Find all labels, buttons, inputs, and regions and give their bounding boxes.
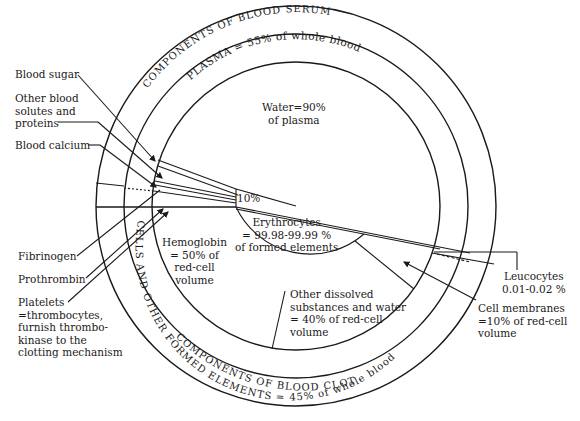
callout-prothrombin: Prothrombin	[18, 273, 86, 286]
outer-bottom-ring-label: COMPONENTS OF BLOOD CLOT	[174, 331, 357, 393]
callout-cell-membranes: Cell membranes =10% of red-cell volume	[478, 302, 567, 340]
callout-fibrinogen: Fibrinogen	[18, 250, 77, 263]
middle-top-ring-label: PLASMA = 55% of whole blood	[184, 29, 363, 82]
other-dissolved-label: Other dissolved substances and water = 4…	[290, 288, 406, 338]
callout-leucocytes: Leucocytes 0.01-0.02 %	[502, 270, 566, 295]
callout-platelets: Platelets =thrombocytes, furnish thrombo…	[18, 296, 123, 359]
callout-blood-sugar: Blood sugar	[15, 68, 79, 81]
ten-percent-label: 10%	[237, 192, 260, 205]
water-label: Water=90% of plasma	[262, 101, 326, 126]
erythrocytes-label: Erythrocytes = 99.98-99.99 % of formed e…	[235, 216, 338, 254]
hemoglobin-label: Hemoglobin = 50% of red-cell volume	[162, 236, 227, 286]
callout-blood-calcium: Blood calcium	[15, 139, 90, 152]
callout-other-solutes: Other blood solutes and proteins	[15, 92, 79, 130]
